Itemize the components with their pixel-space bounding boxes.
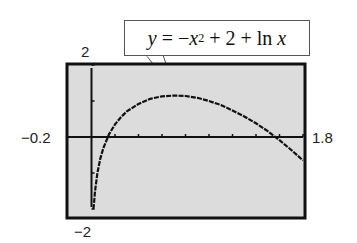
ymin-label: −2 [74,224,91,239]
eq-x: x [189,27,198,50]
plot-frame [67,64,305,218]
eq-rest: + 2 + ln [204,27,277,50]
xmin-label: −0.2 [21,130,51,145]
eq-y: y [148,27,157,50]
equation-label: y = − x 2 + 2 + ln x [124,20,310,56]
eq-x2: x [277,27,286,50]
eq-equals: = − [157,27,190,50]
xmax-label: 1.8 [312,130,333,145]
ymax-label: 2 [81,44,89,59]
chart-figure: y = − x 2 + 2 + ln x 2 −2 −0.2 1.8 [0,0,357,243]
